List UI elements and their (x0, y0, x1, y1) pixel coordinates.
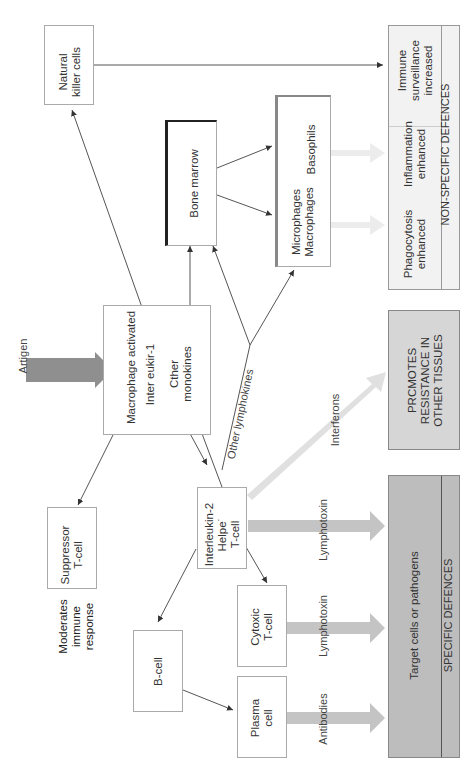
promotes-resistance-label: PRCMOTES RESISTANCE IN OTHER TISSUES (406, 311, 445, 451)
non-specific-defences-box: Immune surveillance increased Inflammati… (388, 25, 460, 290)
target-cells-label: Target cells or pathogens (408, 541, 421, 691)
natural-killer-cells-box: Natural killer cells (44, 25, 94, 105)
antibodies-label: Antibodies (317, 684, 329, 754)
lymphotoxin-cytotoxic-label: Lymphotoxin (317, 591, 329, 661)
plasma-cell-box: Plasma cell (237, 676, 287, 758)
plasma-label: Plasma cell (249, 678, 275, 758)
b-cell-label: B-cell (152, 632, 165, 712)
suppressor-label: Suppressor T-cell (59, 515, 85, 595)
antigen-label: Artigen (17, 326, 29, 386)
basophils-label: Basophils (305, 115, 318, 185)
bone-marrow-box: Bone marrow (165, 120, 217, 246)
promotes-resistance-box: PRCMOTES RESISTANCE IN OTHER TISSUES (388, 310, 460, 450)
helper-t-cell-label: Interleukin-2 Helpe˙ T-cell (203, 495, 242, 575)
inflammation-label: Inflammation enhanced (402, 114, 428, 194)
moderates-immune-response-label: Moderates immune response (57, 587, 96, 667)
natural-killer-label: Natural killer cells (57, 32, 83, 112)
macrophage-activated-box: Macrophage activated Inter eukir-1 Cther… (103, 305, 211, 435)
cytotoxic-t-cell-box: Cytoxic T-cell (237, 585, 287, 667)
microphages-label: Microphages Macrophages (290, 177, 316, 267)
helper-t-cell-box: Interleukin-2 Helpe˙ T-cell (197, 487, 247, 569)
other-monokines-label: Cther monokines (168, 334, 194, 414)
phagocytes-box: Basophils Microphages Macrophages (275, 95, 331, 267)
immune-surveillance-label: Immune surveillance increased (396, 31, 435, 111)
b-cell-box: B-cell (133, 630, 183, 712)
cytotoxic-label: Cytoxic T-cell (249, 587, 275, 667)
bone-marrow-label: Bone marrow (188, 121, 201, 247)
lymphotoxin-helper-label: Lymphotoxin (317, 495, 329, 565)
macrophage-activated-label: Macrophage activated (125, 303, 138, 433)
suppressor-t-cell-box: Suppressor T-cell (47, 507, 97, 589)
interferons-label: Interferons (329, 385, 341, 455)
specific-defences-label: SPECIFIC DEFENCES (442, 541, 455, 691)
phagocytosis-label: Phagocytosis enhanced (402, 204, 428, 284)
specific-defences-box: Target cells or pathogens SPECIFIC DEFEN… (388, 475, 460, 758)
interleukin-1-label: Inter eukir-1 (144, 330, 157, 420)
non-specific-defences-label: NON-SPECIFIC DEFENCES (439, 80, 452, 230)
antigen-arrow (26, 352, 113, 388)
